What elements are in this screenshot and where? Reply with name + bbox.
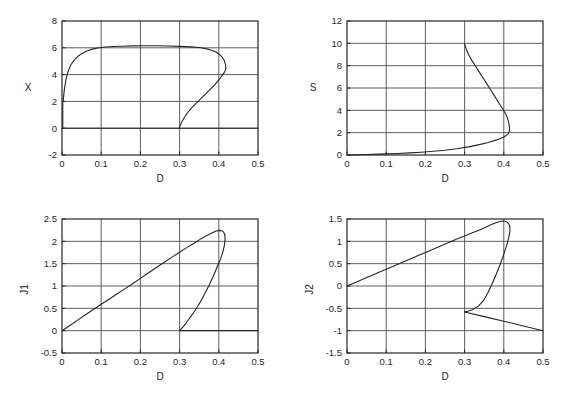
gridlines xyxy=(347,219,543,353)
x-axis-label: D xyxy=(156,173,163,184)
series-upper-stable-branch xyxy=(347,221,510,286)
xtick-label: 0.1 xyxy=(95,158,108,169)
series-upper-stable-branch xyxy=(63,46,226,102)
xtick-label: 0.1 xyxy=(380,158,393,169)
ytick-label: 4 xyxy=(52,69,57,80)
xtick-label: 0.3 xyxy=(173,356,186,367)
ytick-label: 8 xyxy=(337,60,342,71)
ytick-label: 0 xyxy=(52,325,57,336)
ytick-label: 4 xyxy=(337,105,342,116)
xtick-label: 0 xyxy=(344,158,349,169)
gridlines xyxy=(62,219,258,353)
ytick-label: 0.5 xyxy=(329,258,342,269)
ytick-label: 12 xyxy=(331,15,342,26)
xtick-label: 0.5 xyxy=(536,158,549,169)
xtick-label: 0.3 xyxy=(458,356,471,367)
xtick-label: 0.2 xyxy=(134,158,147,169)
subplot-j2-vs-d: 00.10.20.30.40.5-1.5-1-0.500.511.5DJ2 xyxy=(285,198,569,396)
ytick-label: 2 xyxy=(337,127,342,138)
subplot-x-vs-d: 00.10.20.30.40.5-202468DX xyxy=(0,0,284,198)
series-unstable-branch xyxy=(180,235,225,331)
series-turning-and-unstable-branch xyxy=(465,44,510,131)
xtick-label: 0.4 xyxy=(497,356,510,367)
ytick-label: 8 xyxy=(52,15,57,26)
subplot-s-vs-d: 00.10.20.30.40.5024681012DS xyxy=(285,0,569,198)
ytick-label: 2.5 xyxy=(44,213,57,224)
xtick-label: 0 xyxy=(59,158,64,169)
xtick-label: 0.2 xyxy=(419,158,432,169)
x-axis-label: D xyxy=(441,173,448,184)
series-lower-stable-branch xyxy=(347,130,509,155)
xtick-label: 0.1 xyxy=(95,356,108,367)
figure-bifurcation-diagrams: 00.10.20.30.40.5-202468DX 00.10.20.30.40… xyxy=(0,0,569,397)
y-axis-label: J1 xyxy=(19,284,30,295)
plot-area-X-vs-D: 00.10.20.30.40.5-202468DX xyxy=(0,0,284,198)
xtick-label: 0.5 xyxy=(251,158,264,169)
ytick-label: 1.5 xyxy=(44,258,57,269)
gridlines xyxy=(347,21,543,155)
xtick-label: 0.5 xyxy=(251,356,264,367)
ytick-label: 1 xyxy=(337,236,342,247)
ytick-label: -2 xyxy=(49,149,57,160)
ytick-label: 0 xyxy=(52,123,57,134)
ytick-label: 0 xyxy=(337,149,342,160)
ytick-label: 0 xyxy=(337,280,342,291)
y-axis-label: J2 xyxy=(304,284,315,295)
plot-area-J1-vs-D: 00.10.20.30.40.5-0.500.511.522.5DJ1 xyxy=(0,198,284,396)
ytick-label: 2 xyxy=(52,236,57,247)
xtick-label: 0 xyxy=(344,356,349,367)
xtick-label: 0.4 xyxy=(212,158,225,169)
xtick-label: 0 xyxy=(59,356,64,367)
xtick-label: 0.3 xyxy=(173,158,186,169)
ytick-label: 1.5 xyxy=(329,213,342,224)
x-axis-label: D xyxy=(441,371,448,382)
xtick-label: 0.3 xyxy=(458,158,471,169)
ytick-label: -1.5 xyxy=(326,347,342,358)
xtick-label: 0.4 xyxy=(212,356,225,367)
y-axis-label: S xyxy=(310,82,317,93)
ytick-label: -0.5 xyxy=(41,347,57,358)
ytick-label: 10 xyxy=(331,38,342,49)
tick-marks xyxy=(62,21,258,155)
plot-area-S-vs-D: 00.10.20.30.40.5024681012DS xyxy=(285,0,569,198)
xtick-label: 0.5 xyxy=(536,356,549,367)
ytick-label: 1 xyxy=(52,280,57,291)
axes-frame xyxy=(62,21,258,155)
series-unstable-branch xyxy=(465,227,510,312)
subplot-j1-vs-d: 00.10.20.30.40.5-0.500.511.522.5DJ1 xyxy=(0,198,284,396)
plot-area-J2-vs-D: 00.10.20.30.40.5-1.5-1-0.500.511.5DJ2 xyxy=(285,198,569,396)
xtick-label: 0.2 xyxy=(419,356,432,367)
xtick-label: 0.1 xyxy=(380,356,393,367)
ytick-label: -1 xyxy=(334,325,342,336)
ytick-label: 6 xyxy=(52,42,57,53)
ytick-label: 0.5 xyxy=(44,303,57,314)
ytick-label: 6 xyxy=(337,82,342,93)
ytick-label: 2 xyxy=(52,96,57,107)
ytick-label: -0.5 xyxy=(326,303,342,314)
y-axis-label: X xyxy=(25,82,32,93)
xtick-label: 0.4 xyxy=(497,158,510,169)
series-upper-stable-branch xyxy=(62,230,225,330)
xtick-label: 0.2 xyxy=(134,356,147,367)
x-axis-label: D xyxy=(156,371,163,382)
gridlines xyxy=(62,21,258,155)
